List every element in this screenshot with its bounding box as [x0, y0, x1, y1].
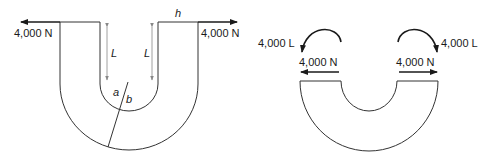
left-force-label-right: 4,000 N [201, 27, 240, 39]
thickness-label: h [175, 7, 181, 19]
left-u-bend-figure: 4,000 N 4,000 N h L L a b [14, 7, 240, 150]
inner-point-label: a [113, 86, 119, 98]
right-u-bend-outline [300, 81, 438, 151]
left-u-bend-outline [60, 22, 198, 150]
moment-arrow-left [302, 30, 341, 52]
length-label-left: L [111, 47, 117, 59]
left-force-label-left: 4,000 N [14, 27, 53, 39]
right-force-label-right: 4,000 N [396, 56, 435, 68]
moment-arrow-right [398, 30, 437, 52]
diagram-canvas: 4,000 N 4,000 N h L L a b 4,000 N 4,000 … [0, 0, 492, 161]
outer-point-label: b [126, 93, 132, 105]
moment-label-right: 4,000 L [441, 37, 478, 49]
length-label-right: L [144, 47, 150, 59]
right-free-body-figure: 4,000 N 4,000 N 4,000 L 4,000 L [258, 30, 478, 151]
right-force-label-left: 4,000 N [299, 56, 338, 68]
moment-label-left: 4,000 L [258, 37, 295, 49]
